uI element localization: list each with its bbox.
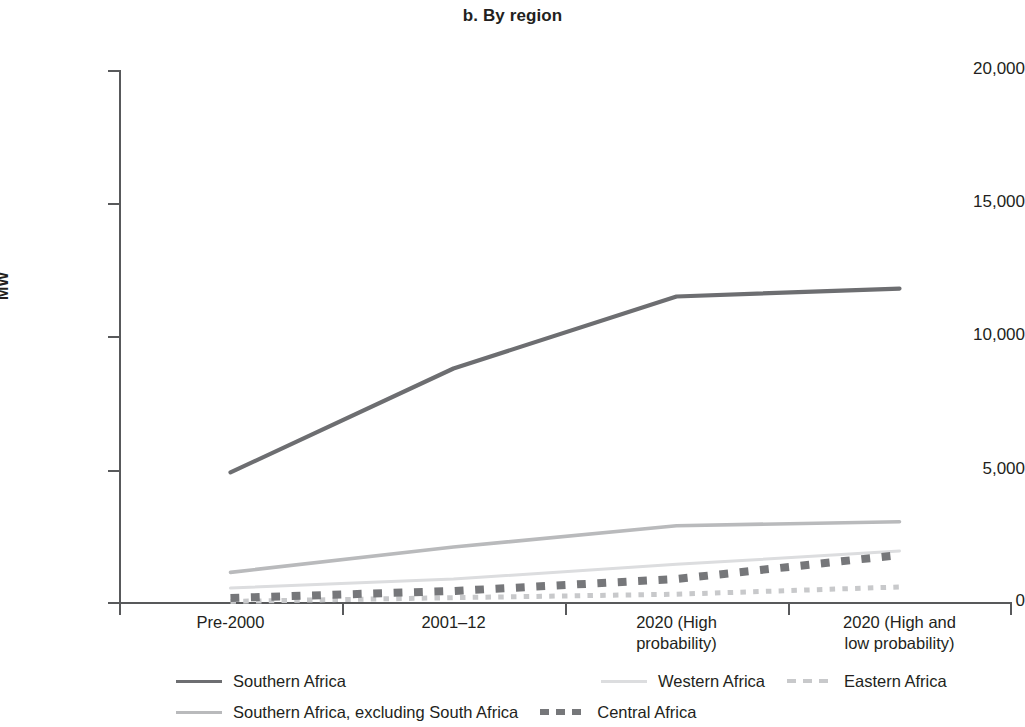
y-tick-label-10000: 10,000	[925, 325, 1025, 345]
x-category-line1: 2001–12	[342, 612, 565, 633]
x-category-label-2020-high-low: 2020 (High and low probability)	[788, 612, 1011, 654]
x-category-line1: 2020 (High and	[788, 612, 1011, 633]
legend-label-western-africa: Western Africa	[658, 672, 765, 691]
legend-swatch-southern-africa-excl	[176, 711, 222, 714]
legend-label-central-africa: Central Africa	[597, 703, 696, 722]
legend-swatch-central-africa	[540, 709, 586, 715]
legend-label-southern-africa-excl: Southern Africa, excluding South Africa	[233, 703, 518, 722]
x-category-line1: 2020 (High	[565, 612, 788, 633]
y-tick-0	[108, 602, 119, 604]
legend-item-western-africa: Western Africa	[601, 672, 765, 691]
legend-row-1b: Western Africa Eastern Africa	[601, 666, 947, 696]
legend-item-southern-africa: Southern Africa	[176, 672, 346, 691]
series-line-western-africa	[231, 551, 900, 588]
y-tick-20000	[108, 70, 119, 72]
legend-swatch-western-africa	[601, 680, 647, 683]
series-line-southern-africa-excluding-south-africa	[231, 522, 900, 573]
x-category-label-2020-high: 2020 (High probability)	[565, 612, 788, 654]
legend-item-central-africa: Central Africa	[540, 703, 696, 722]
y-tick-10000	[108, 336, 119, 338]
figure-root: b. By region 20,000 15,000 10,000 5,000 …	[0, 0, 1025, 727]
y-axis-line	[119, 70, 121, 604]
x-category-line1: Pre-2000	[119, 612, 342, 633]
chart-legend: Southern Africa Western Africa Eastern A…	[0, 666, 1025, 727]
series-line-eastern-africa	[231, 587, 900, 601]
y-axis-label: MW	[0, 272, 12, 300]
legend-row-2: Southern Africa, excluding South Africa …	[176, 697, 696, 727]
legend-label-eastern-africa: Eastern Africa	[844, 672, 947, 691]
y-tick-15000	[108, 203, 119, 205]
x-category-line2: low probability)	[788, 633, 1011, 654]
legend-swatch-eastern-africa	[787, 679, 833, 683]
chart-title: b. By region	[0, 6, 1025, 26]
y-tick-label-5000: 5,000	[925, 459, 1025, 479]
legend-item-eastern-africa: Eastern Africa	[787, 672, 947, 691]
x-category-line2: probability)	[565, 633, 788, 654]
y-tick-label-15000: 15,000	[925, 192, 1025, 212]
x-category-label-pre-2000: Pre-2000	[119, 612, 342, 633]
legend-swatch-southern-africa	[176, 680, 222, 683]
legend-label-southern-africa: Southern Africa	[233, 672, 346, 691]
series-line-central-africa	[231, 555, 900, 598]
y-tick-5000	[108, 470, 119, 472]
legend-row-1: Southern Africa	[176, 666, 346, 696]
series-line-southern-africa	[231, 289, 900, 473]
legend-item-southern-africa-excl: Southern Africa, excluding South Africa	[176, 703, 518, 722]
y-tick-label-20000: 20,000	[925, 59, 1025, 79]
x-category-label-2001-12: 2001–12	[342, 612, 565, 633]
